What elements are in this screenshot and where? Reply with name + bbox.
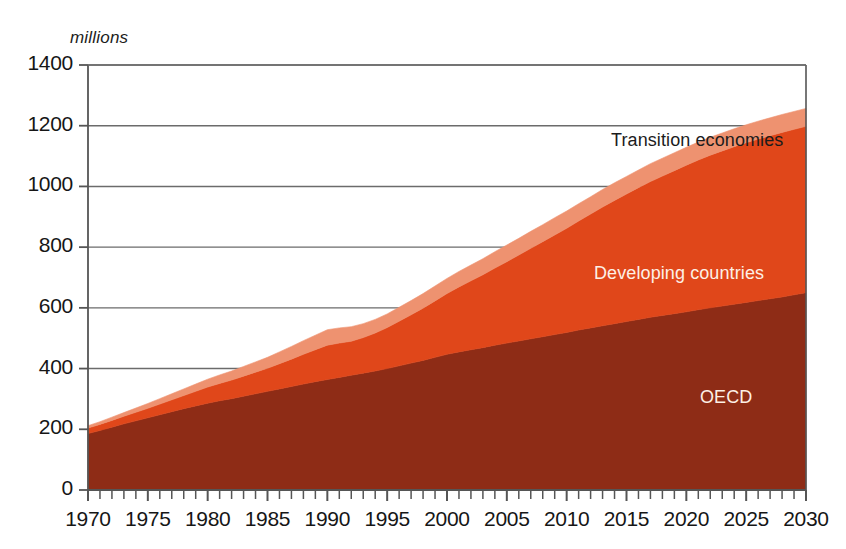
y-tick-label-1200: 1200	[11, 112, 73, 136]
series-label-oecd: OECD	[700, 387, 752, 408]
series-label-transition-economies: Transition economies	[611, 130, 783, 151]
y-tick-label-800: 800	[11, 233, 73, 257]
y-tick-label-0: 0	[11, 476, 73, 500]
x-axis-ticks	[88, 490, 806, 501]
y-tick-label-400: 400	[11, 355, 73, 379]
stacked-area-chart: millions 0200400600800100012001400 19701…	[0, 0, 846, 549]
y-tick-label-200: 200	[11, 415, 73, 439]
y-tick-label-1000: 1000	[11, 172, 73, 196]
area-series-group	[88, 108, 806, 490]
y-axis-ticks	[79, 65, 88, 490]
y-tick-label-600: 600	[11, 294, 73, 318]
series-label-developing-countries: Developing countries	[594, 263, 764, 284]
y-tick-label-1400: 1400	[11, 51, 73, 75]
x-tick-label-2030: 2030	[766, 507, 846, 531]
